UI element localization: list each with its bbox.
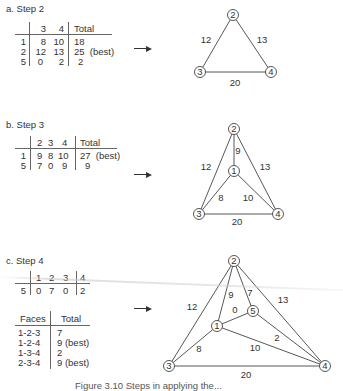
node-label: 2 (230, 9, 235, 20)
node-label: 4 (268, 66, 273, 77)
edge-weight-label: 20 (232, 216, 243, 227)
node-label: 4 (275, 208, 280, 219)
edge-weight-label: 13 (278, 294, 289, 305)
edge-weight-label: 9 (228, 289, 233, 300)
edge-1-3 (199, 171, 234, 214)
edge-weight-label: 8 (218, 192, 223, 203)
edge-2-4 (234, 129, 278, 214)
node-label: 3 (166, 360, 171, 371)
edge-weight-label: 13 (257, 34, 268, 45)
node-label: 1 (231, 165, 236, 176)
edge-1-4 (234, 171, 278, 214)
graph-panel-a: 121320234 (195, 9, 277, 88)
edge-weight-label: 8 (196, 343, 201, 354)
node-label: 2 (231, 123, 236, 134)
edge-weight-label: 2 (274, 332, 279, 343)
edge-5-4 (253, 311, 325, 366)
graph-panel-c: 121397028102025134 (164, 255, 331, 380)
edge-weight-label: 12 (187, 301, 198, 312)
edge-weight-label: 12 (201, 161, 212, 172)
edge-weight-label: 9 (235, 145, 240, 156)
edge-weight-label: 13 (260, 161, 271, 172)
edge-1-3 (169, 326, 217, 366)
node-label: 1 (214, 320, 219, 331)
edge-weight-label: 12 (201, 34, 212, 45)
edge-weight-label: 7 (247, 287, 252, 298)
edge-weight-label: 0 (232, 304, 237, 315)
edge-weight-label: 10 (243, 192, 254, 203)
node-label: 2 (231, 255, 236, 266)
graph-panel-b: 91213810202134 (194, 123, 284, 227)
edge-weight-label: 20 (230, 77, 241, 88)
node-label: 5 (250, 305, 255, 316)
node-label: 4 (322, 360, 327, 371)
node-label: 3 (197, 66, 202, 77)
node-label: 3 (196, 208, 201, 219)
edge-1-4 (217, 326, 325, 366)
edge-weight-label: 20 (241, 369, 252, 380)
edge-weight-label: 10 (250, 342, 261, 353)
figure-caption: Figure 3.10 Steps in applying the... (75, 380, 222, 391)
